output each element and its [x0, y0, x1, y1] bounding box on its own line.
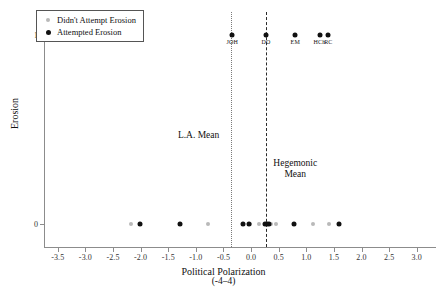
- x-tick-mark: [168, 248, 169, 252]
- x-tick-label: -1.5: [162, 253, 175, 262]
- y-tick-mark: [40, 224, 44, 225]
- data-point: [292, 222, 297, 227]
- legend-label: Attempted Erosion: [57, 27, 121, 37]
- data-point: [230, 32, 235, 37]
- x-tick-mark: [306, 248, 307, 252]
- data-point: [311, 222, 315, 226]
- x-tick-mark: [389, 248, 390, 252]
- x-tick-label: -0.5: [217, 253, 230, 262]
- data-point: [317, 32, 322, 37]
- data-point: [177, 222, 182, 227]
- x-tick-label: 1.5: [329, 253, 339, 262]
- y-tick-label: 0: [30, 220, 38, 229]
- legend-item-didnt-attempt-erosion: Didn't Attempt Erosion: [42, 14, 136, 26]
- x-tick-label: 0.0: [246, 253, 256, 262]
- x-tick-mark: [141, 248, 142, 252]
- plot-area: [44, 12, 425, 247]
- x-tick-mark: [223, 248, 224, 252]
- x-tick-label: -2.5: [106, 253, 119, 262]
- data-point: [326, 32, 331, 37]
- data-point: [246, 222, 251, 227]
- x-tick-label: 2.5: [384, 253, 394, 262]
- data-point: [327, 222, 331, 226]
- data-point-label: DO: [261, 39, 270, 45]
- legend: Didn't Attempt Erosion Attempted Erosion: [36, 10, 144, 42]
- x-tick-label: 3.0: [412, 253, 422, 262]
- x-tick-mark: [58, 248, 59, 252]
- la-mean-annotation: L.A. Mean: [178, 130, 219, 141]
- x-tick-mark: [417, 248, 418, 252]
- legend-marker-black-dot-icon: [42, 30, 54, 35]
- hegemonic-mean-annotation: HegemonicMean: [273, 158, 317, 180]
- x-tick-mark: [113, 248, 114, 252]
- legend-item-attempted-erosion: Attempted Erosion: [42, 26, 136, 38]
- x-tick-mark: [85, 248, 86, 252]
- data-point-label: JOH: [226, 39, 238, 45]
- data-point: [206, 222, 210, 226]
- x-tick-label: 0.5: [274, 253, 284, 262]
- data-point: [137, 222, 142, 227]
- data-point-label: RC: [324, 39, 332, 45]
- legend-label: Didn't Attempt Erosion: [57, 15, 136, 25]
- x-tick-mark: [196, 248, 197, 252]
- data-point: [263, 32, 268, 37]
- x-tick-label: -2.0: [134, 253, 147, 262]
- x-axis-title-range: (-4–4): [0, 276, 447, 286]
- x-tick-label: -3.5: [51, 253, 64, 262]
- x-tick-label: -3.0: [79, 253, 92, 262]
- scatter-plot-figure: -3.5-3.0-2.5-2.0-1.5-1.0-0.50.00.51.01.5…: [0, 0, 447, 294]
- x-tick-mark: [334, 248, 335, 252]
- x-tick-label: -1.0: [189, 253, 202, 262]
- x-tick-mark: [362, 248, 363, 252]
- data-point-label: EM: [291, 39, 300, 45]
- y-axis-title: Erosion: [9, 74, 20, 154]
- hegemonic-mean-reference-line: [266, 12, 267, 247]
- x-axis-line: [44, 247, 436, 248]
- x-tick-label: 2.0: [356, 253, 366, 262]
- x-tick-mark: [279, 248, 280, 252]
- x-tick-mark: [251, 248, 252, 252]
- x-axis-title: Political Polarization (-4–4): [0, 266, 447, 286]
- data-point: [274, 222, 278, 226]
- data-point: [336, 222, 341, 227]
- data-point: [293, 32, 298, 37]
- legend-marker-gray-dot-icon: [42, 18, 54, 22]
- data-point: [240, 222, 245, 227]
- la-mean-reference-line: [231, 12, 232, 247]
- data-point: [257, 222, 261, 226]
- data-point: [266, 222, 271, 227]
- data-point: [129, 222, 133, 226]
- x-tick-label: 1.0: [301, 253, 311, 262]
